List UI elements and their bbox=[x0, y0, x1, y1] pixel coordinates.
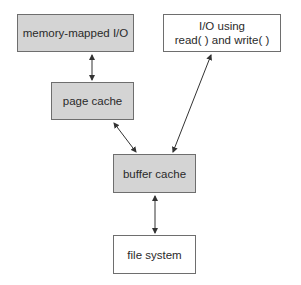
arrow-pagecache-buffercache bbox=[114, 123, 136, 152]
arrow-buffercache-rw bbox=[173, 55, 211, 152]
page-cache-box: page cache bbox=[51, 82, 134, 120]
read-write-io-label-line1: I/O using bbox=[199, 19, 245, 33]
memory-mapped-io-box: memory-mapped I/O bbox=[17, 14, 134, 52]
file-system-label: file system bbox=[127, 248, 181, 262]
file-system-box: file system bbox=[113, 235, 196, 274]
buffer-cache-label: buffer cache bbox=[123, 167, 186, 181]
read-write-io-box: I/O using read( ) and write( ) bbox=[163, 14, 281, 52]
buffer-cache-box: buffer cache bbox=[113, 154, 196, 193]
page-cache-label: page cache bbox=[63, 94, 122, 108]
read-write-io-label-line2: read( ) and write( ) bbox=[175, 33, 270, 47]
memory-mapped-io-label: memory-mapped I/O bbox=[23, 26, 128, 40]
